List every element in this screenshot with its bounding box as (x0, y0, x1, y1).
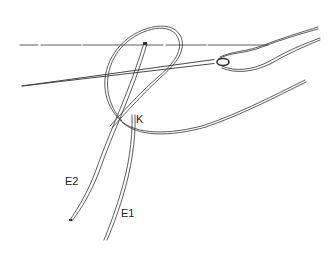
label-end1: E1 (121, 208, 134, 219)
thread-lower (222, 38, 320, 71)
needle (22, 59, 229, 87)
strand-e1 (104, 115, 135, 240)
label-end2: E2 (65, 176, 78, 187)
thread-upper (218, 27, 318, 59)
needle-eye (217, 59, 229, 66)
label-knot: K (136, 114, 143, 125)
thread-loop (105, 26, 183, 128)
thread-tail (120, 80, 306, 134)
knot-illustration (0, 0, 335, 256)
